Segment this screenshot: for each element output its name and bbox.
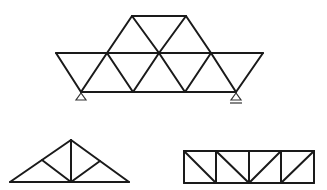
truss-member xyxy=(184,151,216,183)
truss-member xyxy=(107,16,132,53)
truss-member xyxy=(281,151,314,183)
pratt-truss xyxy=(184,151,314,183)
truss-member xyxy=(159,16,186,53)
roof-truss xyxy=(10,140,129,182)
truss-member xyxy=(236,53,263,92)
truss-member xyxy=(211,53,236,92)
truss-member xyxy=(56,53,81,92)
pin-support-icon xyxy=(76,93,86,100)
truss-member xyxy=(186,16,211,53)
roller-support-icon xyxy=(231,93,241,100)
warren-truss xyxy=(56,16,263,103)
truss-member xyxy=(159,53,185,92)
truss-member xyxy=(133,53,159,92)
truss-member xyxy=(216,151,249,183)
truss-member xyxy=(81,53,107,92)
truss-member xyxy=(249,151,281,183)
truss-diagrams xyxy=(0,0,327,190)
truss-member xyxy=(71,161,100,182)
truss-member xyxy=(42,160,71,182)
truss-member xyxy=(107,53,133,92)
truss-member xyxy=(132,16,159,53)
truss-member xyxy=(185,53,211,92)
